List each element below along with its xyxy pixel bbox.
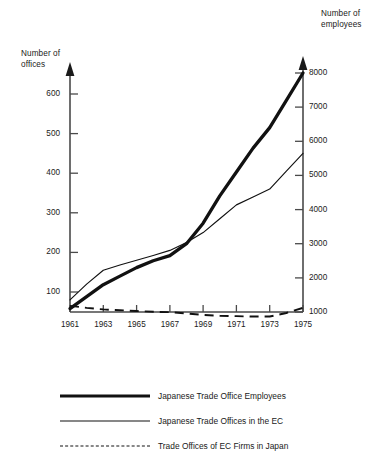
x-tick-label: 1965: [121, 320, 153, 329]
left-axis-ticks: [70, 94, 78, 292]
series-line-japanese-trade-office-employees: [70, 73, 303, 309]
right-tick-label: 3000: [309, 239, 327, 248]
series-line-trade-offices-ec-firms-japan: [70, 306, 303, 317]
left-y-axis: [66, 62, 75, 312]
x-tick-label: 1973: [254, 320, 286, 329]
x-tick-label: 1961: [54, 320, 86, 329]
x-tick-label: 1971: [220, 320, 252, 329]
right-tick-label: 8000: [309, 68, 327, 77]
right-tick-label: 1000: [309, 307, 327, 316]
left-tick-label: 100: [30, 287, 60, 296]
left-tick-label: 200: [30, 247, 60, 256]
legend-item: Japanese Trade Office Employees: [60, 383, 370, 408]
x-tick-label: 1967: [154, 320, 186, 329]
legend-item: Trade Offices of EC Firms in Japan: [60, 433, 370, 458]
right-axis-ticks: [295, 73, 303, 312]
legend-swatch-thin-solid-icon: [60, 416, 150, 426]
chart-figure: Number of offices Number of employees: [0, 0, 383, 461]
left-tick-label: 600: [30, 89, 60, 98]
right-tick-label: 4000: [309, 205, 327, 214]
left-tick-label: 400: [30, 168, 60, 177]
right-tick-label: 7000: [309, 102, 327, 111]
left-tick-label: 300: [30, 208, 60, 217]
x-tick-label: 1963: [87, 320, 119, 329]
right-tick-label: 2000: [309, 273, 327, 282]
series-line-japanese-trade-offices-ec: [70, 153, 303, 300]
right-y-axis: [299, 56, 308, 312]
legend-swatch-dashed-icon: [60, 441, 150, 451]
left-tick-label: 500: [30, 129, 60, 138]
x-tick-label: 1969: [187, 320, 219, 329]
legend-item-label: Japanese Trade Office Employees: [150, 391, 286, 401]
right-tick-label: 6000: [309, 136, 327, 145]
legend-item: Japanese Trade Offices in the EC: [60, 408, 370, 433]
left-axis-title: Number of offices: [21, 49, 60, 70]
legend-swatch-thick-solid-icon: [60, 391, 150, 401]
legend-item-label: Japanese Trade Offices in the EC: [150, 416, 283, 426]
x-tick-label: 1975: [287, 320, 319, 329]
legend-item-label: Trade Offices of EC Firms in Japan: [150, 441, 288, 451]
right-tick-label: 5000: [309, 170, 327, 179]
right-axis-title: Number of employees: [321, 9, 362, 30]
chart-legend: Japanese Trade Office Employees Japanese…: [60, 383, 370, 458]
x-axis-ticks: [70, 305, 303, 312]
